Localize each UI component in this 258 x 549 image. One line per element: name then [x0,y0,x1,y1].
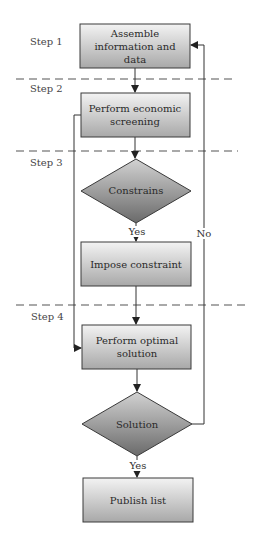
node-optimal-line-2: solution [117,348,158,359]
node-solution-label: Solution [116,419,159,430]
edge-label-solution-no: No [197,228,212,239]
step-2-label: Step 2 [30,83,63,94]
node-constrains: Constrains [81,159,191,223]
node-impose-label: Impose constraint [90,259,182,270]
node-publish-label: Publish list [110,495,166,506]
edge-label-solution-yes: Yes [129,460,147,471]
node-screening-line-1: Perform economic [89,103,182,114]
node-optimal: Perform optimal solution [82,325,191,369]
node-constrains-label: Constrains [109,185,164,196]
step-4-label: Step 4 [31,311,64,322]
node-screening-line-2: screening [110,116,160,127]
edge-screening-bypass-to-optimal [74,115,81,348]
flowchart: Step 1 Step 2 Step 3 Step 4 Assemble inf… [0,0,258,549]
node-optimal-line-1: Perform optimal [96,335,178,346]
node-impose: Impose constraint [81,242,191,286]
node-assemble-line-2: information and [94,41,176,52]
node-publish: Publish list [83,478,193,522]
step-3-label: Step 3 [30,157,63,168]
step-1-label: Step 1 [30,36,63,47]
node-screening: Perform economic screening [81,93,190,137]
edge-label-constrains-yes: Yes [128,226,146,237]
node-assemble-line-1: Assemble [110,28,159,39]
node-assemble-line-3: data [124,54,146,65]
node-solution: Solution [82,392,192,456]
node-assemble: Assemble information and data [80,24,190,68]
